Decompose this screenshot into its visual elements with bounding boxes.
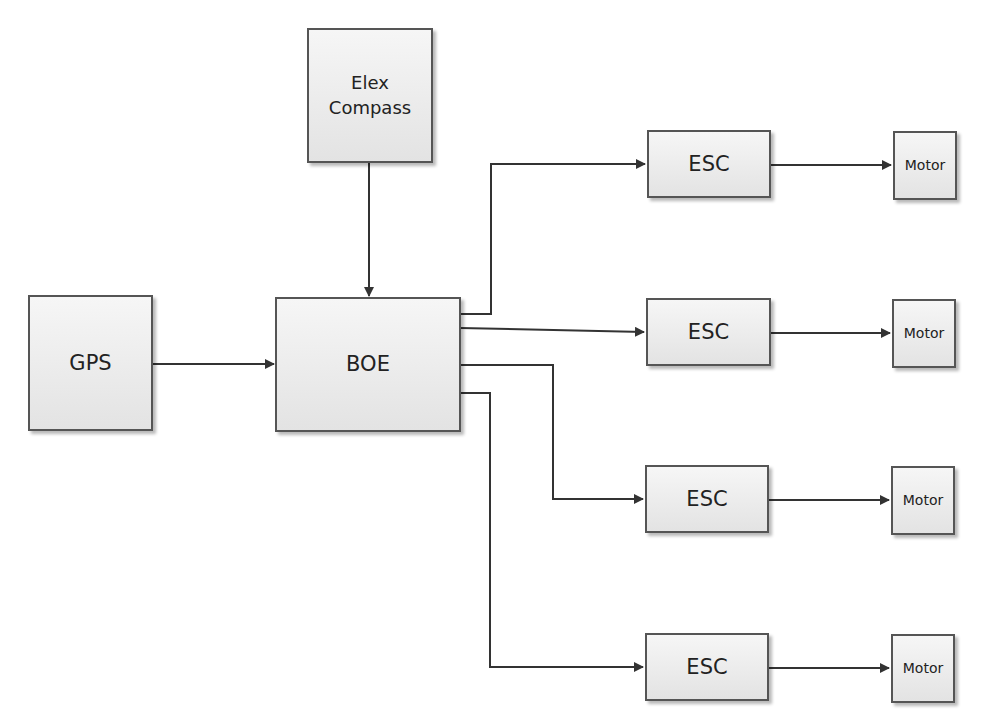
motor-label: Motor bbox=[903, 491, 943, 510]
esc-block-3: ESC bbox=[645, 465, 769, 533]
motor-block-2: Motor bbox=[892, 299, 956, 368]
gps-label: GPS bbox=[69, 349, 111, 377]
connector-boe-esc-3 bbox=[460, 365, 643, 499]
compass-label-line2: Compass bbox=[329, 96, 411, 120]
connector-boe-esc-4 bbox=[460, 393, 643, 667]
motor-label: Motor bbox=[905, 156, 945, 175]
esc-block-1: ESC bbox=[647, 130, 771, 198]
motor-block-3: Motor bbox=[891, 466, 955, 535]
motor-label: Motor bbox=[904, 324, 944, 343]
motor-block-4: Motor bbox=[891, 634, 955, 703]
gps-block: GPS bbox=[28, 295, 153, 431]
boe-label: BOE bbox=[346, 350, 390, 378]
esc-label: ESC bbox=[688, 318, 729, 346]
compass-block: Elex Compass bbox=[307, 28, 433, 163]
compass-label-line1: Elex bbox=[329, 71, 411, 95]
motor-label: Motor bbox=[903, 659, 943, 678]
connector-boe-esc-2 bbox=[460, 328, 644, 332]
esc-label: ESC bbox=[686, 653, 727, 681]
block-diagram: Elex Compass GPS BOE ESC ESC ESC ESC Mot… bbox=[0, 0, 984, 728]
motor-block-1: Motor bbox=[893, 131, 957, 200]
esc-block-4: ESC bbox=[645, 633, 769, 701]
esc-label: ESC bbox=[688, 150, 729, 178]
esc-label: ESC bbox=[686, 485, 727, 513]
boe-block: BOE bbox=[275, 297, 461, 432]
connector-boe-esc-1 bbox=[460, 164, 645, 314]
esc-block-2: ESC bbox=[646, 298, 771, 366]
